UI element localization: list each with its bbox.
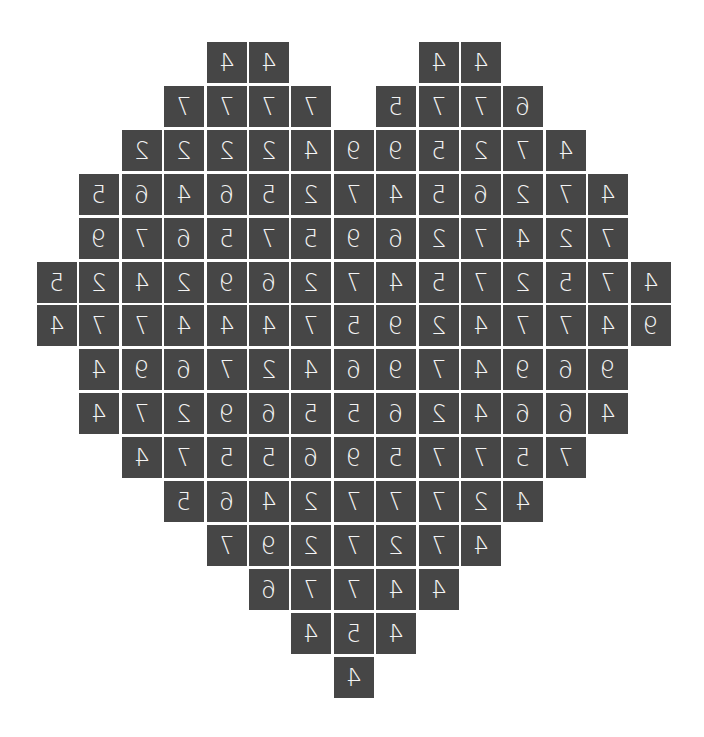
grid-cell[interactable]: 7 [334,481,374,522]
grid-cell[interactable]: 7 [249,86,289,127]
grid-cell[interactable]: 6 [249,569,289,610]
grid-cell[interactable]: 5 [419,262,459,303]
grid-cell[interactable]: 9 [376,305,416,346]
grid-cell[interactable]: 2 [419,218,459,259]
grid-cell[interactable]: 4 [461,349,501,390]
grid-cell[interactable]: 4 [461,42,501,83]
grid-cell[interactable]: 2 [164,393,204,434]
grid-cell[interactable]: 4 [461,525,501,566]
grid-cell[interactable]: 2 [164,130,204,171]
grid-cell[interactable]: 7 [164,86,204,127]
grid-cell[interactable]: 4 [164,305,204,346]
grid-cell[interactable]: 7 [588,262,628,303]
grid-cell[interactable]: 6 [376,218,416,259]
grid-cell[interactable]: 2 [503,262,543,303]
grid-cell[interactable]: 7 [334,262,374,303]
grid-cell[interactable]: 7 [207,525,247,566]
grid-cell[interactable]: 9 [207,393,247,434]
grid-cell[interactable]: 2 [546,218,586,259]
grid-cell[interactable]: 6 [291,437,331,478]
grid-cell[interactable]: 6 [546,349,586,390]
grid-cell[interactable]: 4 [503,481,543,522]
grid-cell[interactable]: 2 [503,174,543,215]
grid-cell[interactable]: 7 [207,349,247,390]
grid-cell[interactable]: 2 [291,262,331,303]
grid-cell[interactable]: 2 [79,262,119,303]
grid-cell[interactable]: 5 [419,130,459,171]
grid-cell[interactable]: 2 [376,525,416,566]
grid-cell[interactable]: 6 [249,393,289,434]
grid-cell[interactable]: 2 [164,262,204,303]
grid-cell[interactable]: 7 [419,481,459,522]
grid-cell[interactable]: 4 [37,305,77,346]
grid-cell[interactable]: 4 [334,657,374,698]
grid-cell[interactable]: 4 [588,305,628,346]
grid-cell[interactable]: 7 [79,305,119,346]
grid-cell[interactable]: 9 [122,349,162,390]
grid-cell[interactable]: 7 [588,218,628,259]
grid-cell[interactable]: 7 [334,569,374,610]
grid-cell[interactable]: 4 [376,262,416,303]
grid-cell[interactable]: 7 [207,86,247,127]
grid-cell[interactable]: 4 [376,613,416,654]
grid-cell[interactable]: 4 [291,613,331,654]
grid-cell[interactable]: 4 [376,174,416,215]
grid-cell[interactable]: 9 [334,130,374,171]
grid-cell[interactable]: 7 [461,262,501,303]
grid-cell[interactable]: 4 [249,305,289,346]
grid-cell[interactable]: 4 [546,130,586,171]
grid-cell[interactable]: 5 [546,262,586,303]
grid-cell[interactable]: 9 [376,349,416,390]
grid-cell[interactable]: 9 [334,218,374,259]
grid-cell[interactable]: 6 [503,393,543,434]
grid-cell[interactable]: 4 [249,481,289,522]
grid-cell[interactable]: 6 [546,393,586,434]
grid-cell[interactable]: 4 [419,569,459,610]
grid-cell[interactable]: 7 [546,305,586,346]
grid-cell[interactable]: 9 [249,525,289,566]
grid-cell[interactable]: 6 [164,218,204,259]
grid-cell[interactable]: 7 [122,393,162,434]
grid-cell[interactable]: 5 [419,174,459,215]
grid-cell[interactable]: 2 [291,525,331,566]
grid-cell[interactable]: 5 [79,174,119,215]
grid-cell[interactable]: 4 [291,349,331,390]
grid-cell[interactable]: 2 [461,130,501,171]
grid-cell[interactable]: 9 [207,262,247,303]
grid-cell[interactable]: 5 [37,262,77,303]
grid-cell[interactable]: 4 [79,349,119,390]
grid-cell[interactable]: 4 [79,393,119,434]
grid-cell[interactable]: 6 [503,86,543,127]
grid-cell[interactable]: 6 [207,174,247,215]
grid-cell[interactable]: 7 [291,305,331,346]
grid-cell[interactable]: 7 [461,86,501,127]
grid-cell[interactable]: 7 [546,437,586,478]
grid-cell[interactable]: 7 [291,86,331,127]
grid-cell[interactable]: 7 [503,305,543,346]
grid-cell[interactable]: 4 [164,174,204,215]
grid-cell[interactable]: 7 [503,130,543,171]
grid-cell[interactable]: 5 [334,305,374,346]
grid-cell[interactable]: 7 [164,437,204,478]
grid-cell[interactable]: 2 [249,349,289,390]
grid-cell[interactable]: 4 [122,262,162,303]
grid-cell[interactable]: 7 [419,437,459,478]
grid-cell[interactable]: 7 [249,218,289,259]
grid-cell[interactable]: 5 [207,218,247,259]
grid-cell[interactable]: 7 [122,305,162,346]
grid-cell[interactable]: 2 [419,393,459,434]
grid-cell[interactable]: 6 [461,174,501,215]
grid-cell[interactable]: 6 [164,349,204,390]
grid-cell[interactable]: 7 [461,218,501,259]
grid-cell[interactable]: 9 [631,305,671,346]
grid-cell[interactable]: 5 [334,393,374,434]
grid-cell[interactable]: 7 [291,569,331,610]
grid-cell[interactable]: 9 [503,349,543,390]
grid-cell[interactable]: 6 [376,393,416,434]
grid-cell[interactable]: 2 [207,130,247,171]
grid-cell[interactable]: 4 [122,437,162,478]
grid-cell[interactable]: 5 [207,437,247,478]
grid-cell[interactable]: 7 [546,174,586,215]
grid-cell[interactable]: 4 [461,393,501,434]
grid-cell[interactable]: 5 [249,437,289,478]
